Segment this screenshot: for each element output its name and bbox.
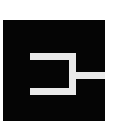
image-canvas [0,0,124,132]
bracket-stem-glyph [30,53,105,95]
glyph-right-stem [69,72,105,79]
connector-bracket-logo [3,20,105,121]
